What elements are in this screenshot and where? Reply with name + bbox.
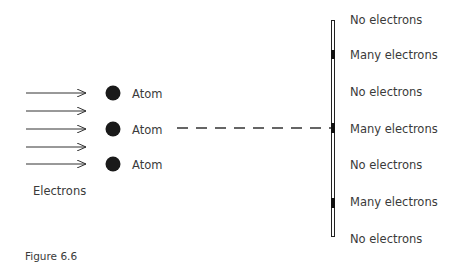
atom-label: Atom [132, 123, 162, 137]
screen-label: No electrons [350, 13, 422, 27]
screen-label: No electrons [350, 85, 422, 99]
screen-label: Many electrons [350, 48, 438, 62]
detector-screen [331, 21, 335, 237]
atom-icon [106, 122, 121, 137]
atoms [106, 86, 121, 172]
screen-label: Many electrons [350, 122, 438, 136]
electrons-source-label: Electrons [33, 184, 86, 198]
screen-label: No electrons [350, 158, 422, 172]
electron-band [331, 50, 335, 59]
atom-label: Atom [132, 87, 162, 101]
electron-band [331, 123, 335, 133]
figure-caption: Figure 6.6 [25, 250, 77, 262]
screen-label: Many electrons [350, 195, 438, 209]
atom-icon [106, 86, 121, 101]
electron-arrows [26, 93, 86, 164]
atom-label: Atom [132, 158, 162, 172]
electron-band [331, 198, 335, 208]
atom-icon [106, 157, 121, 172]
screen-label: No electrons [350, 232, 422, 246]
